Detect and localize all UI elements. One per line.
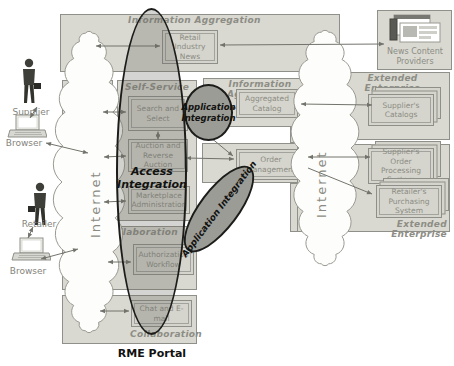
- browser-laptop-icon: [11, 237, 51, 263]
- label-internet-left: Internet: [88, 146, 103, 238]
- supplier-person-icon: [16, 58, 42, 105]
- rme-portal-diagram: Information Aggregation Self-Service Col…: [0, 0, 454, 366]
- browser-laptop-icon: [7, 114, 47, 140]
- label-supplier-browser: Browser: [2, 138, 46, 148]
- label-extended-enterprise-bottom: Extended Enterprise: [352, 220, 447, 240]
- newspaper-icon: [388, 14, 446, 46]
- application-integration-line2: Integration: [181, 113, 235, 123]
- access-integration-line2: Integration: [112, 179, 192, 192]
- panel-internet-strip-row1: [62, 80, 113, 146]
- access-integration-line1: Access: [112, 166, 192, 179]
- label-access-integration: Access Integration: [112, 166, 192, 191]
- stack-suppliers-catalogs: Supplier's Catalogs: [368, 94, 434, 126]
- label-retailer: Retailer: [17, 219, 61, 229]
- label-retailer-browser: Browser: [6, 266, 50, 276]
- box-retailers-purchasing-system: Retailer's Purchasing System: [376, 185, 442, 218]
- label-collaboration-bottom: Collaboration: [130, 330, 192, 340]
- label-news-content-providers: News Content Providers: [381, 47, 449, 67]
- stack-retailers-purchasing: Retailer's Purchasing System: [376, 185, 442, 218]
- arrowhead: [46, 142, 51, 146]
- box-aggregated-catalog: Aggregated Catalog: [236, 89, 298, 118]
- application-integration-line1: Application: [181, 102, 235, 112]
- box-suppliers-catalogs: Supplier's Catalogs: [368, 94, 434, 126]
- rme-portal-caption: RME Portal: [116, 347, 188, 360]
- label-internet-right: Internet: [314, 138, 329, 218]
- overlay-application-integration-circle: Application Integration: [184, 84, 233, 141]
